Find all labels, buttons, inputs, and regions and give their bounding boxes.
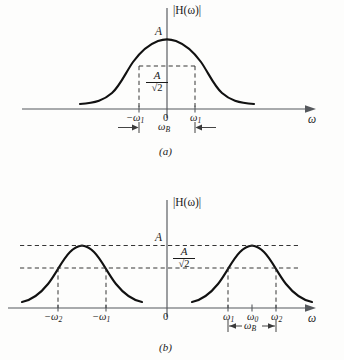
bandwidth-arrow-left-head-a bbox=[132, 125, 139, 131]
bandwidth-label-a: ωB bbox=[158, 122, 170, 134]
peak-label-a: A bbox=[155, 26, 162, 38]
tick-label-neg-w1-b: −ω1 bbox=[92, 312, 110, 324]
half-power-denominator-a: √2 bbox=[146, 83, 168, 94]
x-axis-arrowhead-a bbox=[305, 105, 316, 113]
tick-label-neg-w1-a: −ω1 bbox=[126, 113, 144, 125]
panel-bandpass: |H(ω)| A A √2 −ω2 −ω1 0 ω1 ω0 ω2 ω bbox=[0, 180, 344, 360]
tick-label-pos-w1-b: ω1 bbox=[223, 312, 234, 324]
half-power-numerator-a: A bbox=[146, 70, 168, 81]
bandwidth-arrow-right-head-b bbox=[268, 323, 275, 329]
bandpass-left-lobe-curve bbox=[22, 246, 142, 303]
bandwidth-label-b: ωB bbox=[244, 321, 256, 333]
bandpass-right-lobe-curve bbox=[192, 246, 312, 303]
half-power-label-b: A √2 bbox=[173, 246, 195, 270]
x-axis-arrowhead-b bbox=[305, 304, 316, 312]
x-axis-label-b: ω bbox=[308, 313, 316, 325]
tick-label-pos-w1-a: ω1 bbox=[190, 113, 201, 125]
peak-label-b: A bbox=[155, 232, 162, 244]
x-axis-label-a: ω bbox=[308, 114, 316, 126]
bandwidth-arrow-right-head-a bbox=[195, 125, 202, 131]
panel-b-graphics bbox=[0, 180, 344, 360]
tick-label-neg-w2-b: −ω2 bbox=[44, 312, 62, 324]
half-power-denominator-b: √2 bbox=[173, 259, 195, 270]
caption-a: (a) bbox=[159, 146, 172, 157]
half-power-label-a: A √2 bbox=[146, 70, 168, 94]
y-axis-label-a: |H(ω)| bbox=[173, 5, 201, 17]
caption-b: (b) bbox=[159, 342, 172, 353]
half-power-numerator-b: A bbox=[173, 246, 195, 257]
panel-a-graphics bbox=[0, 0, 344, 180]
y-axis-label-b: |H(ω)| bbox=[173, 197, 201, 209]
panel-lowpass: |H(ω)| A A √2 −ω1 0 ω1 ω ωB (a) bbox=[0, 0, 344, 180]
figure-root: |H(ω)| A A √2 −ω1 0 ω1 ω ωB (a) bbox=[0, 0, 344, 360]
tick-label-pos-w2-b: ω2 bbox=[271, 312, 282, 324]
tick-label-zero-b: 0 bbox=[163, 312, 168, 323]
